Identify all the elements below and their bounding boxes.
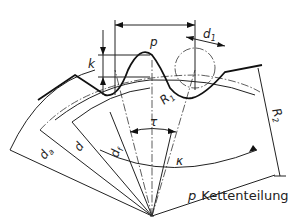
- tooth-height-dimension: [98, 30, 150, 95]
- label-k: k: [88, 57, 96, 71]
- sprocket-diagram: p d1 k R1 R2 da d df τ κ pKettenteilung: [0, 0, 299, 224]
- caption: pKettenteilung: [187, 188, 289, 203]
- tooth-profile: [38, 52, 262, 100]
- label-kappa: κ: [176, 154, 184, 168]
- label-d: d: [71, 139, 87, 154]
- label-r1: R1: [157, 88, 178, 109]
- label-d1: d1: [203, 27, 216, 43]
- label-df: df: [107, 144, 125, 159]
- label-p: p: [149, 35, 158, 49]
- label-r2: R2: [267, 106, 287, 124]
- circle-arcs: [10, 70, 260, 150]
- label-da: da: [36, 143, 56, 163]
- label-tau: τ: [150, 115, 158, 129]
